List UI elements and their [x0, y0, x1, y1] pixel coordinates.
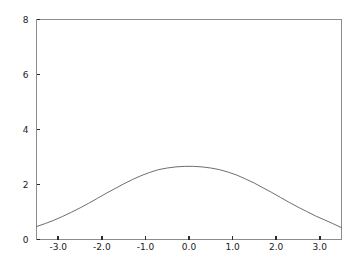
x-tick-label-4: 1.0: [225, 242, 240, 252]
x-tick-label-6: 3.0: [313, 242, 328, 252]
axis-tick-marks: [37, 20, 320, 240]
y-tick-label-1: 2: [23, 180, 29, 190]
data-series-group: [37, 166, 342, 227]
x-tick-label-3: 0.0: [182, 242, 197, 252]
chart-figure: -3.0-2.0-1.00.01.02.03.0 02468: [0, 0, 355, 269]
x-axis-tick-labels: -3.0-2.0-1.00.01.02.03.0: [50, 242, 328, 252]
data-curve-curve: [37, 166, 342, 227]
y-tick-label-0: 0: [23, 235, 29, 245]
y-axis-tick-labels: 02468: [23, 15, 29, 245]
x-tick-label-0: -3.0: [50, 242, 68, 252]
y-tick-label-4: 8: [23, 15, 29, 25]
x-tick-label-1: -2.0: [93, 242, 111, 252]
chart-canvas: -3.0-2.0-1.00.01.02.03.0 02468: [0, 0, 355, 269]
x-tick-label-5: 2.0: [269, 242, 284, 252]
y-tick-label-3: 6: [23, 70, 29, 80]
y-tick-label-2: 4: [23, 125, 29, 135]
x-tick-label-2: -1.0: [137, 242, 155, 252]
